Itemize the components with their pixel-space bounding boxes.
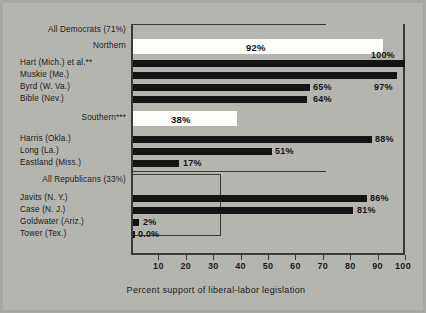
bar-value-harris: 88% [375, 134, 394, 144]
group-label-all-democrats: All Democrats (71%) [11, 25, 126, 35]
row-label-long: Long (La.) [20, 146, 59, 156]
row-label-goldwater: Goldwater (Ariz.) [20, 217, 84, 227]
bar-value-tower: 0.0% [138, 229, 159, 239]
bar-bible [133, 96, 307, 103]
bar-value-byrd: 65% [313, 82, 332, 92]
bar-value-goldwater: 2% [143, 217, 156, 227]
x-tick-label-90: 90 [372, 261, 383, 271]
x-tick-90 [378, 255, 379, 260]
x-tick-label-20: 20 [180, 261, 191, 271]
bar-value-muskie: 97% [374, 82, 393, 92]
x-tick-100 [405, 255, 406, 260]
x-tick-label-40: 40 [235, 261, 246, 271]
bar-case [133, 207, 353, 214]
row-label-tower: Tower (Tex.) [20, 229, 66, 239]
x-tick-label-10: 10 [153, 261, 164, 271]
bar-value-long: 51% [275, 146, 294, 156]
row-label-bible: Bible (Nev.) [20, 94, 64, 104]
bar-javits [133, 195, 367, 202]
row-label-javits: Javits (N. Y.) [20, 193, 68, 203]
x-tick-label-80: 80 [345, 261, 356, 271]
row-label-byrd: Byrd (W. Va.) [20, 82, 70, 92]
bar-long [133, 148, 272, 155]
row-label-muskie: Muskie (Me.) [20, 70, 69, 80]
x-tick-label-30: 30 [208, 261, 219, 271]
row-label-harris: Harris (Okla.) [20, 134, 71, 144]
bar-eastland [133, 160, 179, 167]
bar-value-case: 81% [357, 205, 376, 215]
bar-value-southern: 38% [171, 114, 191, 125]
row-label-eastland: Eastland (Miss.) [20, 158, 81, 168]
bar-goldwater [133, 219, 139, 226]
bar-tower [133, 231, 135, 238]
bar-hart [133, 60, 405, 67]
x-tick-30 [213, 255, 214, 260]
bar-byrd [133, 84, 310, 91]
group-label-all-republicans: All Republicans (33%) [11, 175, 126, 185]
bar-value-eastland: 17% [183, 158, 202, 168]
group-label-northern: Northern [11, 41, 126, 51]
chart-caption: Percent support of liberal-labor legisla… [3, 285, 426, 295]
chart-frame: All Democrats (71%) Northern Hart (Mich.… [0, 0, 426, 313]
x-tick-20 [186, 255, 187, 260]
bar-value-hart: 100% [371, 50, 395, 60]
x-tick-label-50: 50 [263, 261, 274, 271]
group-label-southern: Southern*** [11, 113, 126, 123]
x-tick-label-70: 70 [317, 261, 328, 271]
x-tick-40 [241, 255, 242, 260]
x-tick-60 [295, 255, 296, 260]
bar-muskie [133, 72, 397, 79]
bar-value-javits: 86% [370, 193, 389, 203]
row-label-case: Case (N. J.) [20, 205, 65, 215]
x-tick-70 [323, 255, 324, 260]
x-tick-10 [158, 255, 159, 260]
bar-harris [133, 136, 372, 143]
x-tick-label-100: 100 [395, 261, 411, 271]
bar-value-bible: 64% [313, 94, 332, 104]
row-label-hart: Hart (Mich.) et al.** [20, 58, 92, 68]
x-tick-50 [268, 255, 269, 260]
x-tick-80 [350, 255, 351, 260]
x-tick-label-60: 60 [290, 261, 301, 271]
bar-value-northern: 92% [246, 42, 266, 53]
